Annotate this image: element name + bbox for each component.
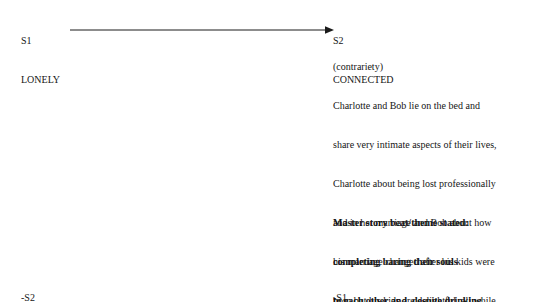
- contrariety-arrow: [70, 22, 332, 38]
- s2-relation-label: (contrariety): [333, 60, 523, 73]
- s2-description-line: Charlotte and Bob lie on the bed and: [333, 99, 523, 112]
- s2-description-line: share very intimate aspects of their liv…: [333, 138, 523, 151]
- master-beat-line: Master story beat/theme stated:: [333, 216, 523, 229]
- corner-s1-term-id: S1: [21, 34, 60, 47]
- semiotic-square-figure: S1 LONELY S2 CONNECTED (contrariety) Cha…: [0, 0, 533, 302]
- corner-s1-term-label: LONELY: [21, 73, 60, 86]
- corner-not-s2: -S2 NOT CONNECTED: [21, 265, 104, 302]
- corner-not-s2-term-id: -S2: [21, 291, 104, 302]
- corner-not-s1: -S1 NOT LONELY: [333, 265, 395, 302]
- s2-description-line: Charlotte about being lost professionall…: [333, 177, 523, 190]
- corner-not-s1-term-id: -S1: [333, 291, 395, 302]
- corner-s1: S1 LONELY: [21, 8, 60, 112]
